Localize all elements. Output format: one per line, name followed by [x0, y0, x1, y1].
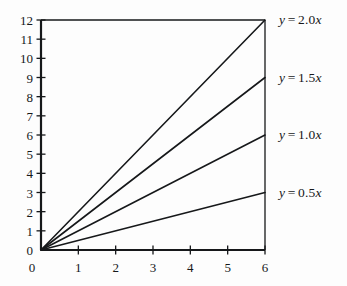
- y-tick-label-6: 6: [4, 129, 33, 142]
- series-label-3: y=0.5x: [279, 186, 322, 200]
- x-tick-label-5: 5: [224, 261, 231, 274]
- y-tick-label-8: 8: [4, 90, 33, 103]
- series-label-var-x: x: [316, 70, 322, 85]
- x-tick-label-4: 4: [187, 261, 194, 274]
- chart-figure: 0123456789101112 0123456 y=2.0xy=1.5xy=1…: [0, 0, 347, 286]
- series-label-coefficient: 1.5: [298, 70, 315, 85]
- series-label-equals: =: [285, 185, 298, 200]
- series-line-1: [41, 78, 265, 251]
- series-label-equals: =: [285, 70, 298, 85]
- y-tick-label-2: 2: [4, 205, 33, 218]
- series-line-3: [41, 193, 265, 251]
- series-line-2: [41, 135, 265, 250]
- series-label-coefficient: 1.0: [298, 127, 315, 142]
- x-tick-label-0: 0: [29, 261, 36, 274]
- series-label-coefficient: 0.5: [298, 185, 315, 200]
- series-label-0: y=2.0x: [279, 13, 322, 27]
- y-tick-label-7: 7: [4, 109, 33, 122]
- y-tick-label-9: 9: [4, 71, 33, 84]
- series-label-coefficient: 2.0: [298, 12, 315, 27]
- series-label-var-x: x: [316, 185, 322, 200]
- x-tick-label-6: 6: [262, 261, 269, 274]
- y-tick-label-3: 3: [4, 186, 33, 199]
- series-label-var-x: x: [316, 12, 322, 27]
- x-tick-label-3: 3: [150, 261, 157, 274]
- series-label-equals: =: [285, 12, 298, 27]
- series-label-var-x: x: [316, 127, 322, 142]
- y-tick-label-11: 11: [4, 33, 33, 46]
- y-tick-label-1: 1: [4, 224, 33, 237]
- y-tick-label-10: 10: [4, 52, 33, 65]
- plot-canvas: [0, 0, 347, 286]
- data-lines: [41, 20, 265, 250]
- x-tick-label-1: 1: [75, 261, 82, 274]
- y-tick-label-4: 4: [4, 167, 33, 180]
- series-label-equals: =: [285, 127, 298, 142]
- y-tick-label-5: 5: [4, 148, 33, 161]
- series-label-2: y=1.0x: [279, 128, 322, 142]
- y-tick-label-0: 0: [4, 244, 33, 257]
- y-tick-label-12: 12: [4, 14, 33, 27]
- x-tick-label-2: 2: [112, 261, 119, 274]
- series-label-1: y=1.5x: [279, 71, 322, 85]
- series-line-0: [41, 20, 265, 250]
